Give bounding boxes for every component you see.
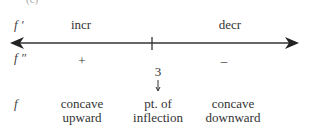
f-double-prime-label: f ″ [14,50,26,66]
concave-downward-line1: concave [206,97,261,111]
f-prime-increasing: incr [71,17,91,33]
concave-upward-line1: concave [61,97,104,111]
inflection-point-text: pt. of inflection [133,97,183,125]
inflection-point-line2: inflection [133,111,183,125]
concave-upward-line2: upward [61,111,104,125]
concave-upward-text: concave upward [61,97,104,125]
concave-downward-line2: downward [206,111,261,125]
inflection-point-line1: pt. of [133,97,183,111]
f-double-prime-negative: – [221,53,228,69]
f-label: f [14,96,18,112]
critical-value: 3 [155,64,162,80]
concave-downward-text: concave downward [206,97,261,125]
f-prime-decreasing: decr [219,17,241,33]
f-prime-label: f ′ [14,17,24,33]
f-double-prime-positive: + [78,53,85,69]
